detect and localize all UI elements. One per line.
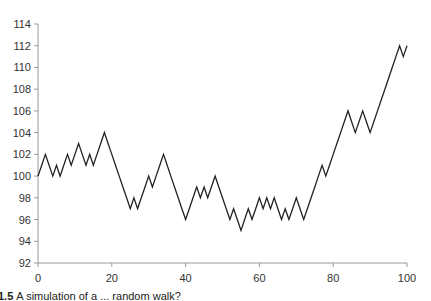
y-tick-label: 108 [13, 83, 31, 95]
line-chart: 92949698100102104106108110112114 0204060… [0, 0, 431, 301]
caption-number: 1.5 [0, 290, 13, 301]
y-tick-label: 114 [13, 18, 31, 30]
y-tick-label: 102 [13, 148, 31, 160]
x-tick-label: 20 [106, 272, 118, 284]
caption-text: A simulation of a ... random walk? [16, 290, 180, 301]
figure-caption: 1.5 A simulation of a ... random walk? [0, 290, 181, 301]
y-tick-label: 94 [19, 235, 31, 247]
y-tick-label: 112 [13, 40, 31, 52]
y-tick-label: 100 [13, 170, 31, 182]
y-tick-label: 104 [13, 127, 31, 139]
x-tick-label: 100 [398, 272, 416, 284]
x-tick-label: 80 [327, 272, 339, 284]
y-tick-label: 96 [19, 214, 31, 226]
y-axis: 92949698100102104106108110112114 [13, 18, 38, 269]
y-tick-label: 106 [13, 105, 31, 117]
x-tick-label: 40 [179, 272, 191, 284]
x-tick-label: 0 [35, 272, 41, 284]
x-axis: 020406080100 [35, 263, 416, 284]
y-tick-label: 92 [19, 257, 31, 269]
y-tick-label: 110 [13, 61, 31, 73]
y-tick-label: 98 [19, 192, 31, 204]
data-line [38, 46, 407, 231]
x-tick-label: 60 [253, 272, 265, 284]
